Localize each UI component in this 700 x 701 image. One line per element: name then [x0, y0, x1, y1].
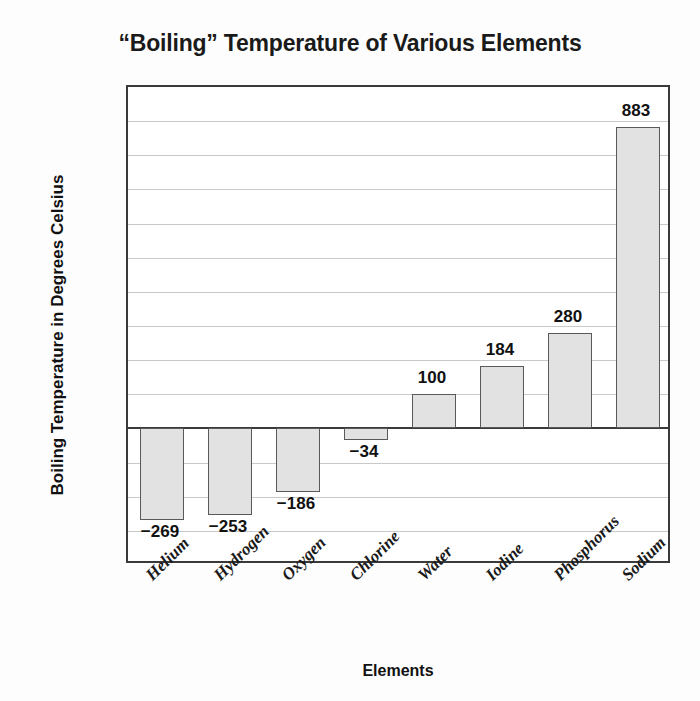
gridline [128, 189, 668, 190]
gridline [128, 224, 668, 225]
bar [412, 394, 456, 428]
bar-value-label: 100 [387, 368, 477, 388]
bar [616, 127, 660, 428]
bar [548, 333, 592, 429]
chart-figure: “Boiling” Temperature of Various Element… [0, 0, 700, 701]
bar [208, 428, 252, 514]
bar-value-label: −186 [251, 494, 341, 514]
x-axis-title: Elements [126, 662, 670, 680]
bar-value-label: 883 [591, 101, 681, 121]
gridline [128, 121, 668, 122]
bar-value-label: −253 [183, 517, 273, 537]
bar [140, 428, 184, 520]
bar [276, 428, 320, 492]
gridline [128, 292, 668, 293]
bar-value-label: 184 [455, 340, 545, 360]
y-axis-title: Boiling Temperature in Degrees Celsius [48, 125, 68, 545]
bar-value-label: −34 [319, 442, 409, 462]
bar [480, 366, 524, 429]
bar [344, 428, 388, 440]
gridline [128, 155, 668, 156]
chart-title: “Boiling” Temperature of Various Element… [0, 30, 700, 57]
bar-value-label: 280 [523, 307, 613, 327]
gridline [128, 258, 668, 259]
